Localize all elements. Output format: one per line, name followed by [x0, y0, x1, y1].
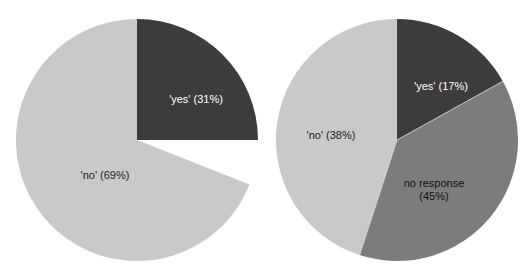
right-pie-label-yes: 'yes' (17%) — [414, 80, 468, 92]
right-pie-chart: 'yes' (17%) 'no' (38%) no response (45%) — [276, 19, 518, 261]
right-pie-label-no-response-line2: (45%) — [419, 190, 448, 202]
left-pie-label-yes: 'yes' (31%) — [169, 93, 223, 105]
left-pie-label-no: 'no' (69%) — [81, 169, 130, 181]
left-pie-slice-yes — [137, 19, 258, 140]
left-pie-chart: 'yes' (31%) 'no' (69%) — [16, 19, 258, 261]
right-pie-label-no-response-line1: no response — [404, 177, 465, 189]
pie-charts: 'yes' (31%) 'no' (69%) 'yes' (17%) 'no' … — [0, 0, 531, 278]
right-pie-label-no: 'no' (38%) — [307, 129, 356, 141]
